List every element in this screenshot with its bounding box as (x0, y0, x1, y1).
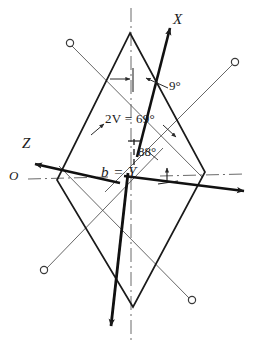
vector-down-line (111, 173, 128, 326)
guide-circle-top-right (231, 58, 238, 65)
indicatrix-figure: X Z O b = Y 9° 2V = 69° 88° (0, 0, 255, 350)
label-origin: O (9, 169, 18, 182)
guide-circle-bottom-right (188, 296, 195, 303)
vector-right-line (124, 176, 244, 191)
label-axis-z: Z (22, 136, 30, 151)
guide-line-lower-right (59, 166, 189, 298)
leader-2v-right (163, 125, 176, 137)
label-angle-2v: 2V = 69° (105, 112, 155, 125)
optic-vectors (35, 28, 244, 326)
guide-circle-bottom-left (40, 266, 47, 273)
guide-circle-top-left (66, 39, 73, 46)
leader-2v-left (91, 124, 104, 135)
label-center-b-equals-y: b = Y (101, 165, 137, 180)
label-axis-x: X (173, 12, 182, 27)
vector-x-line (137, 28, 170, 157)
label-angle-88deg: 88° (138, 145, 156, 158)
label-angle-9deg: 9° (169, 79, 181, 92)
